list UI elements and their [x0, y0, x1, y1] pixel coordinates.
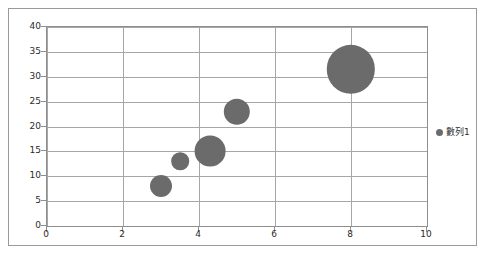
- y-axis-tick-label: 5: [15, 196, 41, 205]
- data-bubble[interactable]: [224, 98, 250, 124]
- gridline-horizontal: [47, 27, 427, 28]
- y-axis-tick-label: 0: [15, 221, 41, 230]
- y-axis-tick-label: 40: [15, 22, 41, 31]
- x-axis-tick-label: 8: [335, 230, 365, 239]
- y-axis-tick-label: 25: [15, 96, 41, 105]
- bubble-chart: 0510152025303540 0246810 數列1: [0, 0, 487, 256]
- gridline-vertical: [199, 27, 200, 226]
- x-axis-tick-label: 4: [183, 230, 213, 239]
- y-axis-tick-label: 10: [15, 171, 41, 180]
- gridline-horizontal: [47, 201, 427, 202]
- y-axis-tick-label: 20: [15, 121, 41, 130]
- chart-frame: 0510152025303540 0246810 數列1: [8, 8, 477, 246]
- gridline-vertical: [47, 27, 48, 226]
- data-bubble[interactable]: [171, 153, 189, 171]
- gridline-horizontal: [47, 52, 427, 53]
- y-axis-tick-label: 15: [15, 146, 41, 155]
- legend-circle-marker-icon: [436, 129, 443, 136]
- x-axis-tick-label: 10: [411, 230, 441, 239]
- gridline-horizontal: [47, 127, 427, 128]
- data-bubble[interactable]: [150, 175, 172, 197]
- x-axis-labels: 0246810: [46, 230, 428, 246]
- y-axis-labels: 0510152025303540: [11, 26, 41, 227]
- gridline-horizontal: [47, 176, 427, 177]
- gridline-vertical: [427, 27, 428, 226]
- data-bubble[interactable]: [327, 45, 375, 93]
- x-axis-tick-label: 6: [259, 230, 289, 239]
- gridline-vertical: [275, 27, 276, 226]
- gridline-vertical: [123, 27, 124, 226]
- legend-item-label: 數列1: [446, 128, 470, 137]
- data-bubble[interactable]: [195, 136, 226, 167]
- x-axis-tick-label: 0: [31, 230, 61, 239]
- gridline-horizontal: [47, 151, 427, 152]
- x-axis-tick-label: 2: [107, 230, 137, 239]
- y-axis-tick-label: 35: [15, 46, 41, 55]
- chart-legend[interactable]: 數列1: [436, 128, 470, 137]
- plot-area: [46, 26, 428, 227]
- y-axis-tick-label: 30: [15, 71, 41, 80]
